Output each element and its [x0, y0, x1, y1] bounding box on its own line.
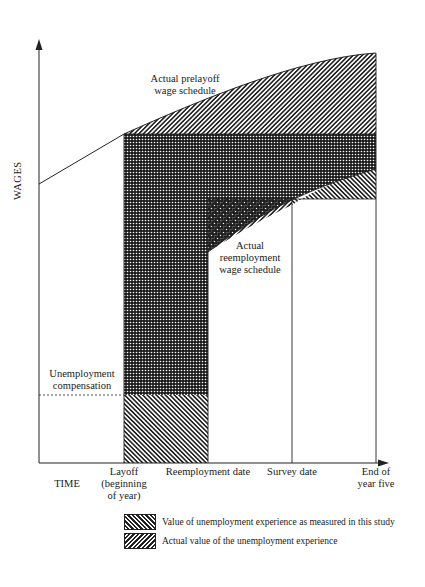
- prelayoff-annotation: Actual prelayoff wage schedule: [125, 73, 245, 97]
- measured-value-area-bottom: [124, 395, 208, 463]
- y-axis-arrow-icon: [36, 39, 43, 50]
- tick-end-year-five: End of year five: [346, 466, 406, 490]
- x-axis-label: TIME: [50, 478, 84, 490]
- reemployment-annotation: Actual reemployment wage schedule: [210, 240, 290, 276]
- tick-layoff: Layoff (beginning of year): [94, 466, 154, 502]
- legend-item-measured: Value of unemployment experience as meas…: [124, 513, 395, 531]
- tick-reemployment: Reemployment date: [156, 466, 260, 478]
- unemployment-comp-annotation: Unemployment compensation: [42, 368, 122, 392]
- legend-item-actual: Actual value of the unemployment experie…: [124, 532, 337, 550]
- hatch-slash-icon: [124, 533, 156, 549]
- y-axis-label: WAGES: [12, 161, 23, 200]
- tick-survey: Survey date: [256, 466, 328, 478]
- hatch-backslash-icon: [124, 514, 156, 530]
